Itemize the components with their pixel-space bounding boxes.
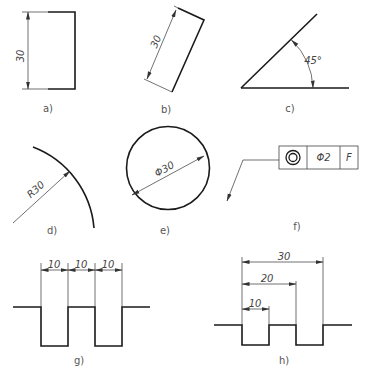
panel-label: e) — [160, 225, 170, 236]
datum-letter: F — [346, 152, 352, 163]
extension-line — [144, 79, 172, 92]
panel-f: Φ2 F f) — [227, 146, 358, 232]
panel-label: d) — [47, 225, 57, 236]
panel-e: Φ30 e) — [127, 127, 210, 237]
panel-h: 30 20 10 h) — [214, 251, 352, 366]
profile-outline — [13, 307, 150, 346]
concentricity-icon-inner — [289, 154, 297, 162]
dimension-text: R30 — [25, 179, 47, 200]
dimension-text: 20 — [261, 273, 274, 284]
profile-outline — [214, 325, 352, 345]
panel-label: h) — [279, 355, 289, 366]
radius-line — [13, 171, 70, 223]
panel-label: g) — [74, 355, 84, 366]
angled-line — [241, 14, 317, 88]
panel-label: b) — [161, 104, 171, 115]
dimension-text: 30 — [15, 50, 26, 63]
leader-line — [227, 160, 279, 201]
tolerance-value: Φ2 — [316, 152, 330, 163]
dimension-text: 30 — [278, 251, 291, 262]
dimension-text: 10 — [75, 259, 88, 270]
dimension-text: 10 — [249, 298, 262, 309]
panel-d: R30 d) — [13, 147, 94, 236]
panel-g: 10 10 10 g) — [13, 259, 150, 366]
panel-label: c) — [285, 103, 294, 114]
panel-label: f) — [293, 221, 301, 232]
panel-label: a) — [43, 103, 53, 114]
extension-line — [174, 6, 178, 8]
panel-a: 30 a) — [15, 12, 75, 114]
dimension-text: 45° — [304, 55, 322, 66]
dimension-text: Φ30 — [153, 159, 176, 179]
panel-c: 45° c) — [241, 14, 349, 114]
rectangle-outline — [172, 8, 204, 92]
concentricity-icon — [286, 151, 300, 165]
dimension-text: 30 — [148, 34, 163, 50]
rectangle-outline — [48, 12, 75, 89]
dimension-text: 10 — [48, 259, 61, 270]
dimension-text: 10 — [102, 259, 115, 270]
panel-b: 30 b) — [144, 6, 204, 115]
